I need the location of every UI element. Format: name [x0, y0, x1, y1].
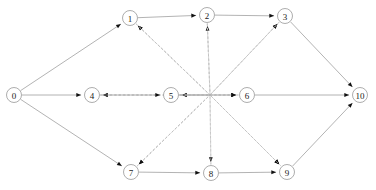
node-2[interactable]: 2 — [200, 8, 215, 23]
node-8[interactable]: 8 — [204, 166, 219, 181]
node-3[interactable]: 3 — [278, 9, 293, 24]
node-label-9: 9 — [285, 168, 290, 178]
dashed-edge-2-to-6 — [207, 23, 236, 95]
node-label-5: 5 — [169, 91, 174, 101]
edge-0-to-1 — [21, 24, 121, 91]
edge-7-to-8 — [139, 172, 200, 173]
arrowhead-1-to-2 — [191, 14, 196, 18]
arrowhead-4-to-5 — [155, 93, 160, 97]
dashed-edge-8-to-4 — [103, 95, 211, 165]
edge-3-to-10 — [291, 22, 353, 87]
edge-1-to-2 — [138, 15, 196, 17]
arrowhead-6-to-10 — [344, 93, 349, 97]
edge-0-to-7 — [21, 99, 122, 166]
arrowhead-0-to-4 — [76, 93, 81, 97]
arrowhead-7-to-8 — [195, 171, 200, 175]
arrowhead-0-to-1 — [116, 24, 121, 28]
dashed-edge-2-to-5 — [182, 23, 210, 95]
dashed-edge-6-to-7 — [139, 95, 239, 164]
edge-8-to-9 — [219, 172, 276, 173]
dashed-edge-5-to-3 — [180, 24, 278, 95]
arrowhead-0-to-7 — [117, 162, 122, 166]
arrowhead-5-to-6 — [231, 93, 236, 97]
edge-9-to-10 — [293, 103, 353, 166]
node-4[interactable]: 4 — [85, 88, 100, 103]
dashed-edge-9-to-4 — [103, 95, 281, 166]
node-9[interactable]: 9 — [280, 165, 295, 180]
node-label-4: 4 — [90, 91, 95, 101]
node-label-0: 0 — [12, 91, 17, 101]
graph-svg: 012345678910 — [0, 0, 376, 190]
arrowhead-8-to-9 — [271, 170, 276, 174]
node-layer: 012345678910 — [7, 8, 368, 181]
node-7[interactable]: 7 — [124, 165, 139, 180]
edge-2-to-3 — [215, 15, 274, 16]
node-1[interactable]: 1 — [123, 11, 138, 26]
dashed-edge-4-to-9 — [101, 95, 280, 164]
node-label-1: 1 — [128, 14, 133, 24]
node-5[interactable]: 5 — [164, 88, 179, 103]
node-label-10: 10 — [356, 91, 366, 101]
node-10[interactable]: 10 — [353, 88, 368, 103]
arrowhead-2-to-3 — [269, 14, 274, 18]
diagram-canvas: 012345678910 — [0, 0, 376, 190]
node-0[interactable]: 0 — [7, 88, 22, 103]
node-label-7: 7 — [129, 168, 134, 178]
node-6[interactable]: 6 — [240, 88, 255, 103]
node-label-3: 3 — [283, 12, 288, 22]
node-label-6: 6 — [245, 91, 250, 101]
arrowhead-6-to-7 — [139, 160, 144, 165]
node-label-2: 2 — [205, 11, 210, 21]
node-label-8: 8 — [209, 169, 214, 179]
